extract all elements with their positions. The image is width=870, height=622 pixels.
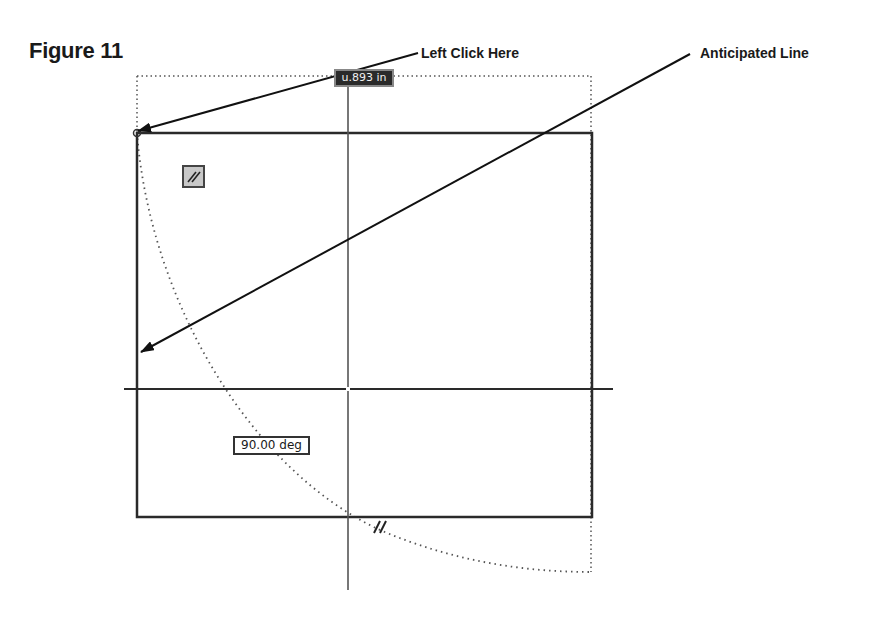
- parallel-constraint-icon[interactable]: [182, 165, 205, 188]
- dotted-arc: [137, 133, 591, 572]
- sketch-rectangle[interactable]: [137, 133, 592, 517]
- angle-label[interactable]: 90.00 deg: [233, 436, 310, 455]
- sketch-canvas[interactable]: [0, 0, 870, 622]
- dotted-preview-frame: [137, 76, 591, 572]
- parallel-lines-icon: [184, 167, 203, 186]
- dimension-label[interactable]: u.893 in: [334, 69, 394, 87]
- arrow-anticipated-line: [141, 54, 690, 352]
- arrow-left-click: [138, 53, 418, 131]
